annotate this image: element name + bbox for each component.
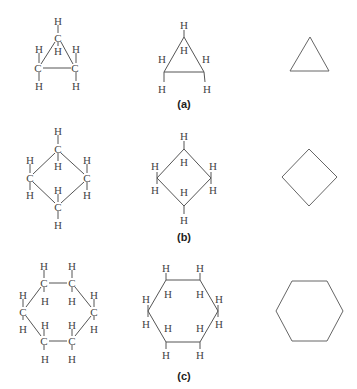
c-atom: C [54,32,61,44]
h-atom: H [54,184,62,196]
h-atom: H [41,319,49,331]
cycloalkane-figure: H C H H C H H C H H H H H H H (a) [0,0,357,389]
cyclobutane-structural: H C H H C H H C H H C H [26,125,91,231]
row-b: H C H H C H H C H H C H H H H H H H H H [26,125,337,243]
c-atom: C [40,277,47,289]
h-atom: H [151,184,159,196]
h-atom: H [162,349,170,361]
c-atom: C [68,335,75,347]
h-atom: H [196,322,204,334]
cyclohexane-skeletal [276,281,343,341]
h-atom: H [151,160,159,172]
h-atom: H [68,295,76,307]
c-atom: C [83,172,90,184]
h-atom: H [68,260,76,272]
cyclobutane-skeletal [282,149,337,206]
h-atom: H [54,160,62,172]
h-atom: H [72,43,80,55]
h-atom: H [158,53,166,65]
c-atom: C [54,201,61,213]
h-atom: H [83,154,91,166]
h-atom: H [180,130,188,142]
h-atom: H [209,160,217,172]
h-atom: H [72,80,80,92]
h-atom: H [54,15,62,27]
h-atom: H [54,219,62,231]
h-atom: H [41,353,49,365]
c-atom: C [71,62,78,74]
c-atom: C [40,335,47,347]
h-atom: H [196,288,204,300]
h-atom: H [26,189,34,201]
cyclopropane-skeletal [290,37,329,71]
c-atom: C [68,277,75,289]
h-atom: H [19,323,27,335]
row-label: (c) [177,370,191,382]
c-atom: C [34,62,41,74]
h-atom: H [180,44,188,56]
h-atom: H [180,19,188,31]
cyclobutane-line-with-h: H H H H H H H H (b) [151,130,217,243]
h-atom: H [54,125,62,137]
h-atom: H [196,349,204,361]
h-atom: H [162,262,170,274]
c-atom: C [90,306,97,318]
cyclohexane-line-with-h: H H H H H H H H H H H H (c) [142,262,223,382]
h-atom: H [83,189,91,201]
h-atom: H [215,318,223,330]
h-atom: H [40,260,48,272]
h-atom: H [142,293,150,305]
h-atom: H [68,353,76,365]
h-atom: H [215,293,223,305]
h-atom: H [19,289,27,301]
h-atom: H [180,186,188,198]
h-atom: H [180,214,188,226]
h-atom: H [196,262,204,274]
h-atom: H [41,295,49,307]
h-atom: H [164,288,172,300]
h-atom: H [142,318,150,330]
cyclopropane-line-with-h: H H H H H H (a) [158,19,211,110]
h-atom: H [158,83,166,95]
h-atom: H [164,322,172,334]
cyclopropane-structural: H C H H C H H C H [34,15,80,92]
row-a: H C H H C H H C H H H H H H H (a) [34,15,329,110]
h-atom: H [90,289,98,301]
h-atom: H [180,156,188,168]
h-atom: H [68,319,76,331]
row-label: (b) [177,231,191,243]
h-atom: H [26,154,34,166]
c-atom: C [19,306,26,318]
figure-svg: H C H H C H H C H H H H H H H (a) [0,0,357,389]
h-atom: H [203,83,211,95]
h-atom: H [35,80,43,92]
row-c: H C H H C H H C H H C H H C H H C H [19,260,343,382]
row-label: (a) [177,98,191,110]
h-atom: H [209,184,217,196]
h-atom: H [90,323,98,335]
h-atom: H [202,53,210,65]
cyclohexane-structural: H C H H C H H C H H C H H C H H C H [19,260,98,365]
h-atom: H [35,43,43,55]
h-atom: H [54,45,62,57]
c-atom: C [54,143,61,155]
c-atom: C [26,172,33,184]
